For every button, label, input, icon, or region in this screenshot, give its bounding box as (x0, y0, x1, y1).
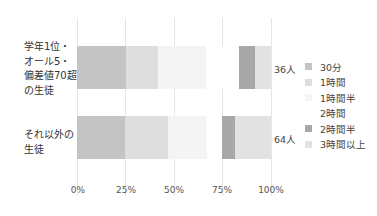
legend-item: 1時間 (305, 75, 366, 91)
stacked-bar (77, 116, 271, 159)
bar-segment (125, 116, 167, 159)
legend-swatch-icon (305, 110, 312, 117)
gridline-50 (174, 18, 175, 196)
total-label: 36人 (274, 62, 296, 76)
bar-segment (255, 46, 271, 89)
legend-label: 2時間半 (320, 122, 356, 136)
x-tick: 50% (164, 185, 184, 195)
bar-segment (168, 116, 207, 159)
x-tick: 100% (258, 185, 284, 195)
legend-swatch-icon (305, 79, 312, 86)
bar-segment (207, 116, 222, 159)
legend-label: 30分 (320, 60, 342, 74)
legend-swatch-icon (305, 141, 312, 148)
legend-label: 1時間 (320, 75, 346, 89)
legend-swatch-icon (305, 94, 312, 101)
legend-item: 30分 (305, 59, 366, 75)
legend-item: 2時間半 (305, 121, 366, 137)
legend-swatch-icon (305, 125, 312, 132)
gridline-25 (125, 18, 126, 196)
legend-item: 3時間以上 (305, 137, 366, 153)
legend-swatch-icon (305, 63, 312, 70)
category-label: それ以外の 生徒 (24, 128, 74, 157)
legend-label: 3時間以上 (320, 137, 366, 151)
gridline-0 (77, 18, 78, 196)
stacked-bar (77, 46, 271, 89)
x-tick: 25% (116, 185, 136, 195)
legend-label: 1時間半 (320, 91, 356, 105)
bar-segment (77, 116, 125, 159)
x-tick: 0% (71, 185, 85, 195)
bar-segment (239, 46, 255, 89)
bar-segment (222, 116, 234, 159)
total-label: 64人 (274, 132, 296, 146)
gridline-100 (271, 18, 272, 196)
bar-segment (77, 46, 126, 89)
bar-segment (206, 46, 238, 89)
legend-label: 2時間 (320, 106, 346, 120)
gridline-75 (222, 18, 223, 196)
bar-segment (158, 46, 207, 89)
bar-segment (235, 116, 271, 159)
x-tick: 75% (212, 185, 232, 195)
legend-item: 2時間 (305, 106, 366, 122)
category-label: 学年1位・ オール5・ 偏差値70超 の生徒 (24, 40, 77, 98)
legend-item: 1時間半 (305, 90, 366, 106)
bar-segment (126, 46, 158, 89)
legend: 30分1時間1時間半2時間2時間半3時間以上 (305, 59, 366, 152)
